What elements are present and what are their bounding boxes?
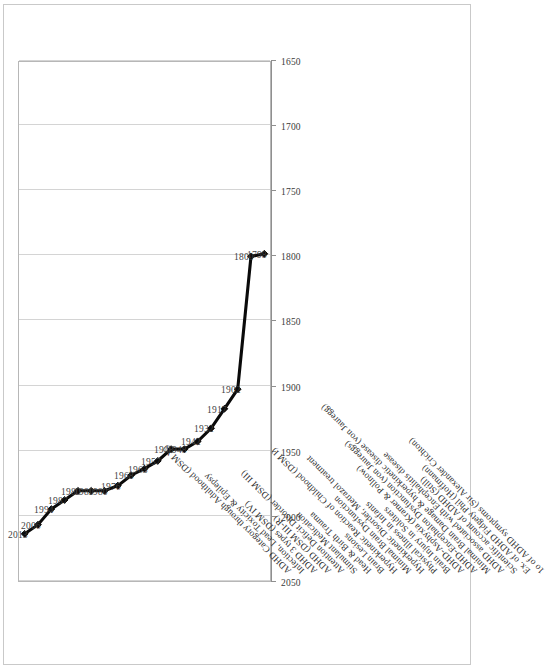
data-point-label: 2006 (21, 521, 41, 531)
data-point-label: 1976 (101, 482, 121, 492)
data-point-label: 1798 (247, 250, 267, 260)
data-point-label: 2013 (8, 530, 28, 540)
data-point-label: 1942 (181, 437, 201, 447)
data-point-label: 1917 (207, 405, 227, 415)
data-point-label: 1957 (141, 457, 161, 467)
data-point-label: 1932 (194, 424, 214, 434)
category-label-layer: ADHD Category through Adulthood (DSM V)I… (273, 2, 473, 582)
data-point-label: 1994 (34, 505, 54, 515)
data-point-label: 1902 (221, 385, 241, 395)
data-point-label: 1987 (48, 496, 68, 506)
